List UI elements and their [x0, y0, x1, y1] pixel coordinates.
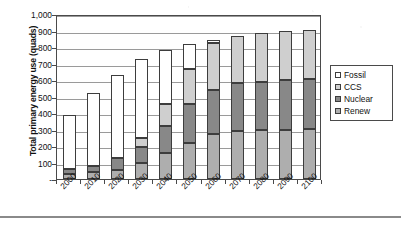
- bar-group[interactable]: [231, 14, 244, 179]
- bar-segment-nuclear[interactable]: [207, 90, 220, 135]
- bar-group[interactable]: [255, 14, 268, 179]
- legend-swatch-icon: [335, 108, 341, 114]
- bar-segment-nuclear[interactable]: [303, 79, 316, 129]
- bar-segment-fossil[interactable]: [63, 115, 76, 169]
- y-axis-tick-marks: [0, 15, 60, 180]
- bar-segment-nuclear[interactable]: [279, 80, 292, 130]
- bar-segment-ccs[interactable]: [255, 33, 268, 82]
- bar-segment-ccs[interactable]: [159, 104, 172, 126]
- bar-segment-fossil[interactable]: [87, 93, 100, 166]
- bar-segment-ccs[interactable]: [231, 36, 244, 83]
- chart-legend: FossilCCSNuclearRenew: [330, 65, 393, 121]
- legend-label: Renew: [344, 106, 370, 116]
- legend-label: Nuclear: [344, 94, 373, 104]
- bar-segment-nuclear[interactable]: [231, 83, 244, 130]
- legend-swatch-icon: [335, 96, 341, 102]
- bar-segment-fossil[interactable]: [207, 40, 220, 43]
- bar-segment-nuclear[interactable]: [111, 158, 124, 170]
- bar-segment-ccs[interactable]: [303, 30, 316, 80]
- x-axis-tick-labels: 2000201020202030204020502060207020802090…: [56, 184, 336, 214]
- bar-segment-ccs[interactable]: [207, 43, 220, 90]
- bar-group[interactable]: [87, 14, 100, 179]
- legend-swatch-icon: [335, 72, 341, 78]
- bar-segment-fossil[interactable]: [111, 75, 124, 158]
- bar-group[interactable]: [135, 14, 148, 179]
- plot-area: [56, 15, 321, 180]
- bar-group[interactable]: [111, 14, 124, 179]
- bar-segment-fossil[interactable]: [183, 44, 196, 70]
- bar-group[interactable]: [303, 14, 316, 179]
- bar-segment-ccs[interactable]: [135, 138, 148, 147]
- bar-segment-fossil[interactable]: [135, 59, 148, 139]
- figure-page: Total primary energy use (quads) -100200…: [0, 0, 401, 227]
- bar-segment-nuclear[interactable]: [159, 126, 172, 152]
- page-divider-rule: [0, 216, 401, 218]
- bar-segment-ccs[interactable]: [183, 69, 196, 104]
- bar-segment-ccs[interactable]: [279, 31, 292, 80]
- bar-segment-fossil[interactable]: [159, 50, 172, 104]
- bar-group[interactable]: [63, 14, 76, 179]
- legend-label: CCS: [344, 82, 362, 92]
- bar-segment-nuclear[interactable]: [255, 82, 268, 131]
- legend-item-renew[interactable]: Renew: [335, 105, 389, 117]
- bar-group[interactable]: [159, 14, 172, 179]
- legend-label: Fossil: [344, 70, 366, 80]
- legend-item-fossil[interactable]: Fossil: [335, 69, 389, 81]
- bar-segment-nuclear[interactable]: [183, 104, 196, 143]
- bar-group[interactable]: [279, 14, 292, 179]
- bar-segment-nuclear[interactable]: [135, 147, 148, 164]
- legend-item-nuclear[interactable]: Nuclear: [335, 93, 389, 105]
- bar-chart: Total primary energy use (quads) -100200…: [0, 0, 401, 213]
- legend-item-ccs[interactable]: CCS: [335, 81, 389, 93]
- bar-group[interactable]: [207, 14, 220, 179]
- legend-swatch-icon: [335, 84, 341, 90]
- bar-group[interactable]: [183, 14, 196, 179]
